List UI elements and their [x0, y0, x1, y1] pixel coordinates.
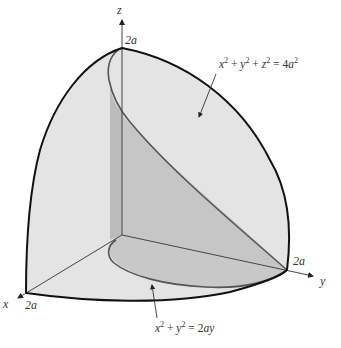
- sphere-equation: x2 + y2 + z2 = 4a2: [218, 56, 298, 71]
- sphere-cylinder-diagram: z 2a y 2a x 2a x2 + y2 + z2 = 4a2 x2 + y…: [0, 0, 341, 348]
- y-tick-label: 2a: [293, 254, 305, 268]
- x-axis-label: x: [2, 297, 9, 311]
- x-tick-label: 2a: [25, 298, 37, 312]
- cylinder-equation: x2 + y2 = 2ay: [154, 320, 215, 335]
- z-tick-label: 2a: [125, 33, 137, 47]
- z-axis-label: z: [116, 3, 122, 17]
- y-axis-label: y: [319, 274, 326, 288]
